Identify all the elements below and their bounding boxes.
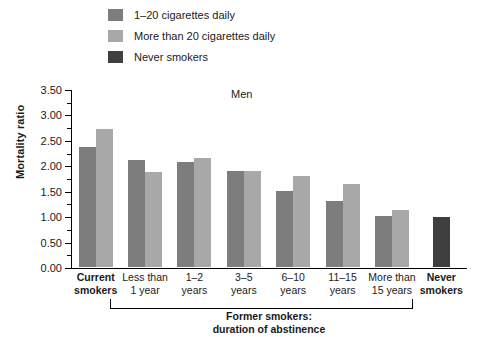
bracket-caption-line1: Former smokers: [71, 310, 467, 323]
legend-swatch-1-20-icon [108, 9, 123, 21]
panel-title: Men [231, 88, 252, 100]
y-tick-major [65, 90, 71, 91]
bar-group[interactable] [269, 176, 318, 267]
legend-swatch-more-than-20-icon [108, 30, 123, 42]
bar[interactable] [293, 176, 310, 267]
bar-group[interactable] [219, 171, 268, 267]
y-tick-label: 0.50 [28, 238, 62, 249]
x-axis-label: Neversmokers [408, 271, 475, 296]
former-smokers-bracket [110, 299, 413, 309]
x-axis-line [71, 268, 467, 269]
legend-item: 1–20 cigarettes daily [108, 8, 275, 21]
legend-item: Never smokers [108, 50, 275, 63]
bar-group[interactable] [367, 210, 416, 267]
legend-label: Never smokers [134, 51, 208, 63]
y-tick-label: 2.00 [28, 161, 62, 172]
bar[interactable] [128, 160, 145, 267]
bracket-line [110, 308, 413, 309]
x-axis-label-line1: Never [408, 271, 475, 284]
bar-group[interactable] [170, 158, 219, 267]
bar[interactable] [343, 184, 360, 267]
bar-group[interactable] [417, 217, 466, 267]
y-tick-major [65, 268, 71, 269]
bar-group[interactable] [71, 129, 120, 267]
bar[interactable] [326, 201, 343, 267]
x-axis-labels: CurrentsmokersLess than1 year1–2years3–5… [71, 271, 467, 299]
bracket-right-tick [412, 299, 413, 309]
bar[interactable] [79, 147, 96, 267]
legend-label: 1–20 cigarettes daily [134, 9, 235, 21]
bar[interactable] [375, 216, 392, 267]
y-tick-label: 2.50 [28, 136, 62, 147]
bracket-caption-line2: duration of abstinence [71, 323, 467, 336]
legend-label: More than 20 cigarettes daily [134, 30, 275, 42]
bar[interactable] [433, 217, 450, 267]
bar-group[interactable] [318, 184, 367, 267]
y-tick-label: 3.50 [28, 85, 62, 96]
y-axis-title: Mortality ratio [14, 105, 26, 179]
chart-plot-area: Men 3.503.002.502.001.501.000.500.00 [71, 90, 466, 268]
bracket-caption: Former smokers: duration of abstinence [71, 310, 467, 335]
y-tick-label: 3.00 [28, 110, 62, 121]
bar[interactable] [177, 162, 194, 267]
bar[interactable] [96, 129, 113, 267]
bar[interactable] [244, 171, 261, 267]
y-tick-label: 0.00 [28, 263, 62, 274]
bar[interactable] [194, 158, 211, 267]
legend-item: More than 20 cigarettes daily [108, 29, 275, 42]
chart-legend: 1–20 cigarettes daily More than 20 cigar… [108, 8, 275, 63]
y-tick-major [65, 115, 71, 116]
bar-group[interactable] [120, 160, 169, 267]
bar[interactable] [392, 210, 409, 267]
bar[interactable] [227, 171, 244, 267]
x-axis-label-line2: smokers [408, 284, 475, 297]
y-tick-label: 1.00 [28, 212, 62, 223]
legend-swatch-never-icon [108, 51, 123, 63]
bar[interactable] [276, 191, 293, 267]
y-tick-label: 1.50 [28, 187, 62, 198]
y-tick-minor [67, 103, 71, 104]
bar[interactable] [145, 172, 162, 267]
